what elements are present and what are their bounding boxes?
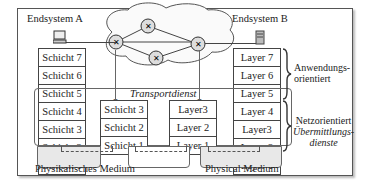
computer-icon: [53, 30, 67, 44]
svg-text:✕: ✕: [153, 54, 160, 63]
arrow-line-b: [199, 50, 200, 100]
router-icon: ✕: [191, 37, 205, 51]
medium-label-left: Physikalisches Medium: [35, 163, 135, 174]
svg-text:✕: ✕: [145, 22, 152, 31]
link-b: [205, 43, 257, 44]
layer-cell: Layer 2: [170, 119, 216, 137]
endsystem-a-title: Endsystem A: [27, 13, 83, 24]
layer-cell: Schicht 6: [39, 67, 85, 85]
link-a: [64, 42, 116, 43]
transport-label: Transportdienst: [130, 88, 197, 99]
layer-cell: Schicht 7: [39, 49, 85, 67]
brace-upper-icon: [282, 48, 292, 100]
router-icon: ✕: [149, 51, 163, 65]
arrow-line-a: [115, 50, 116, 100]
dashed-link: [208, 146, 260, 152]
layer-cell: Layer 6: [234, 67, 280, 85]
dashed-link: [135, 146, 187, 152]
brace-lower-icon: [282, 100, 292, 152]
brace-upper-label: Anwendungs- orientiert: [294, 62, 350, 84]
router-icon: ✕: [141, 19, 155, 33]
layer-cell: Schicht 3: [101, 101, 147, 119]
layer-cell: Schicht 2: [101, 119, 147, 137]
server-icon: [255, 30, 265, 45]
endsystem-b-title: Endsystem B: [232, 13, 288, 24]
medium-label-right: Physical Medium: [205, 163, 279, 174]
dashed-link: [61, 146, 113, 152]
layer-cell: Layer3: [170, 101, 216, 119]
svg-text:✕: ✕: [195, 40, 202, 49]
layer-cell: Layer 7: [234, 49, 280, 67]
brace-lower-label: Netzorientiert Übermittlungs- dienste: [293, 115, 354, 148]
cloud-network-icon: ✕ ✕ ✕ ✕: [100, 2, 240, 70]
